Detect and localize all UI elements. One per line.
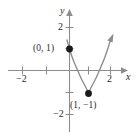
y-intercept-label: (0, 1) bbox=[33, 44, 54, 54]
parabola-right-arrow-icon bbox=[107, 34, 113, 43]
parabola-graph-figure: y x −2 2 2 −2 (0, 1) (1, −1) bbox=[0, 0, 137, 133]
y-axis-label: y bbox=[60, 6, 65, 16]
y-tick-label--2: −2 bbox=[53, 109, 64, 119]
y-tick-label-2: 2 bbox=[58, 22, 63, 32]
y-intercept-point bbox=[66, 46, 73, 53]
vertex-point bbox=[85, 90, 92, 97]
y-axis-arrow-icon bbox=[66, 9, 73, 16]
x-tick-label--2: −2 bbox=[16, 74, 27, 84]
parabola-path bbox=[67, 40, 111, 93]
x-axis-label: x bbox=[126, 72, 131, 82]
x-tick-label-2: 2 bbox=[107, 74, 112, 84]
vertex-label: (1, −1) bbox=[70, 101, 97, 111]
graph-canvas bbox=[0, 0, 137, 133]
